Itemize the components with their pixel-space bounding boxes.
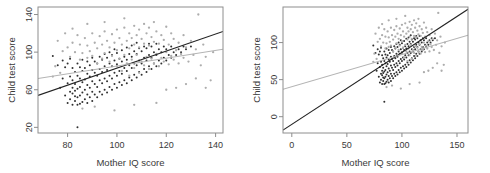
data-point [94, 93, 96, 95]
data-point [59, 72, 61, 74]
data-point [408, 64, 410, 66]
data-point [382, 41, 384, 43]
data-point [69, 91, 71, 93]
data-point [388, 46, 390, 48]
data-point [81, 101, 83, 103]
data-point [378, 53, 380, 55]
data-point [401, 24, 403, 26]
data-point [417, 33, 419, 35]
data-point [427, 70, 429, 72]
data-point [401, 70, 403, 72]
data-point [155, 43, 157, 45]
data-point [384, 53, 386, 55]
data-point [205, 87, 207, 89]
data-point [136, 77, 138, 79]
data-point [393, 73, 395, 75]
data-point [397, 65, 399, 67]
data-point [86, 93, 88, 95]
data-point [195, 48, 197, 50]
data-point [128, 47, 130, 49]
data-point [185, 83, 187, 85]
data-point [391, 67, 393, 69]
data-point [202, 43, 204, 45]
y-tick-label: 0 [269, 114, 279, 119]
data-point [413, 55, 415, 57]
data-point [133, 25, 135, 27]
data-point [399, 62, 401, 64]
data-point [421, 28, 423, 30]
data-point [143, 64, 145, 66]
data-point [416, 30, 418, 32]
data-point [52, 55, 54, 57]
data-point [123, 79, 125, 81]
data-point [375, 58, 377, 60]
data-point [190, 45, 192, 47]
data-point [395, 42, 397, 44]
data-point [429, 43, 431, 45]
data-point [394, 75, 396, 77]
data-point [81, 59, 83, 61]
data-point [182, 34, 184, 36]
data-point [86, 84, 88, 86]
data-point [113, 83, 115, 85]
data-point [94, 61, 96, 63]
data-point [170, 55, 172, 57]
data-point [190, 40, 192, 42]
data-point [403, 68, 405, 70]
data-point [392, 77, 394, 79]
data-point [392, 50, 394, 52]
data-point [415, 36, 417, 38]
data-point [89, 64, 91, 66]
data-point [104, 77, 106, 79]
data-point [380, 45, 382, 47]
data-point [96, 47, 98, 49]
data-point [390, 73, 392, 75]
data-point [423, 71, 425, 73]
data-point [131, 37, 133, 39]
data-point [136, 64, 138, 66]
data-point [379, 50, 381, 52]
data-point [141, 74, 143, 76]
data-point [423, 41, 425, 43]
data-point [103, 21, 105, 23]
data-point [395, 25, 397, 27]
data-point [109, 62, 111, 64]
x-tick-label: 100 [394, 140, 409, 150]
data-point [374, 33, 376, 35]
data-point [400, 67, 402, 69]
data-point [391, 75, 393, 77]
data-point [409, 41, 411, 43]
data-point [128, 53, 130, 55]
data-point [86, 61, 88, 63]
data-point [173, 51, 175, 53]
data-point [121, 84, 123, 86]
data-point [67, 102, 69, 104]
data-point [403, 36, 405, 38]
data-point [425, 44, 427, 46]
data-point [168, 63, 170, 65]
data-point [401, 42, 403, 44]
data-point [397, 46, 399, 48]
data-point [436, 62, 438, 64]
data-point [118, 70, 120, 72]
data-point [72, 67, 74, 69]
data-point [390, 80, 392, 82]
y-tick-label: 100 [24, 45, 34, 60]
data-point [126, 82, 128, 84]
data-point [76, 75, 78, 77]
data-point [407, 30, 409, 32]
data-point [390, 44, 392, 46]
data-point [64, 66, 66, 68]
plot-area [38, 13, 223, 128]
data-point [381, 70, 383, 72]
data-point [133, 50, 135, 52]
data-point [391, 34, 393, 36]
data-point [72, 79, 74, 81]
data-point [69, 98, 71, 100]
data-point [126, 70, 128, 72]
data-point [111, 77, 113, 79]
data-point [111, 89, 113, 91]
data-point [406, 43, 408, 45]
data-point [158, 48, 160, 50]
data-point [155, 30, 157, 32]
